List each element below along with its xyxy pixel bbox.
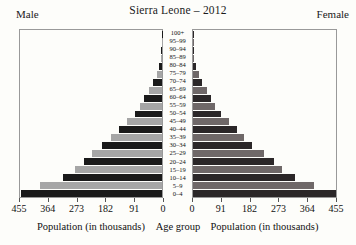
male-bar-50–54 — [135, 111, 162, 118]
female-bar-40–44 — [193, 126, 237, 133]
female-axis-tick-label-91: 91 — [206, 203, 236, 214]
age-group-axis: 100+95–9990–9485–8980–8475–7970–7465–696… — [163, 29, 192, 198]
male-row-45–49 — [20, 117, 162, 125]
female-row-95–99 — [193, 38, 336, 46]
female-bar-90–94 — [193, 47, 194, 54]
female-axis-tick-label-364: 364 — [292, 203, 322, 214]
male-bar-10–14 — [63, 174, 162, 181]
female-axis-tick-364 — [307, 198, 308, 202]
female-bar-60–64 — [193, 95, 211, 102]
female-bar-25–29 — [193, 150, 264, 157]
male-bar-75–79 — [157, 71, 162, 78]
female-row-15–19 — [193, 165, 336, 173]
age-label-5–9: 5–9 — [163, 182, 192, 190]
male-axis-tick-label-455: 455 — [4, 203, 34, 214]
male-bar-rows — [20, 30, 162, 197]
female-bar-10–14 — [193, 174, 295, 181]
female-axis-caption: Population (in thousands) — [192, 221, 337, 232]
age-label-15–19: 15–19 — [163, 166, 192, 174]
female-axis-tick-label-455: 455 — [321, 203, 351, 214]
male-row-50–54 — [20, 110, 162, 118]
female-row-30–34 — [193, 141, 336, 149]
female-bar-5–9 — [193, 182, 314, 189]
male-row-40–44 — [20, 125, 162, 133]
female-axis-tick-273 — [278, 198, 279, 202]
female-bar-0–4 — [193, 190, 336, 197]
age-label-85–89: 85–89 — [163, 53, 192, 61]
female-bar-85–89 — [193, 55, 194, 62]
male-axis-tick-label-273: 273 — [62, 203, 92, 214]
female-axis-tick-label-273: 273 — [263, 203, 293, 214]
female-bar-70–74 — [193, 79, 202, 86]
male-bar-30–34 — [102, 142, 162, 149]
male-row-70–74 — [20, 78, 162, 86]
female-row-10–14 — [193, 173, 336, 181]
male-axis-caption: Population (in thousands) — [19, 221, 163, 232]
female-bar-30–34 — [193, 142, 252, 149]
male-row-15–19 — [20, 165, 162, 173]
female-row-0–4 — [193, 189, 336, 197]
male-axis-tick-182 — [105, 198, 106, 202]
female-bar-55–59 — [193, 103, 215, 110]
male-bar-45–49 — [127, 118, 162, 125]
male-row-20–24 — [20, 157, 162, 165]
male-axis-tick-91 — [134, 198, 135, 202]
male-axis-tick-label-364: 364 — [33, 203, 63, 214]
female-bar-15–19 — [193, 166, 282, 173]
male-row-75–79 — [20, 70, 162, 78]
male-bar-65–69 — [149, 87, 162, 94]
male-bar-40–44 — [119, 126, 162, 133]
male-bar-5–9 — [40, 182, 162, 189]
male-axis-tick-364 — [48, 198, 49, 202]
female-row-35–39 — [193, 133, 336, 141]
female-bar-rows — [193, 30, 336, 197]
female-row-90–94 — [193, 46, 336, 54]
female-bar-20–24 — [193, 158, 274, 165]
male-row-0–4 — [20, 189, 162, 197]
age-label-25–29: 25–29 — [163, 150, 192, 158]
female-row-55–59 — [193, 102, 336, 110]
male-axis-tick-label-91: 91 — [119, 203, 149, 214]
male-bar-35–39 — [111, 134, 162, 141]
male-row-55–59 — [20, 102, 162, 110]
male-axis-tick-label-182: 182 — [90, 203, 120, 214]
male-bar-70–74 — [153, 79, 162, 86]
male-bar-60–64 — [144, 95, 162, 102]
female-bar-80–84 — [193, 63, 196, 70]
age-label-10–14: 10–14 — [163, 174, 192, 182]
female-row-40–44 — [193, 125, 336, 133]
female-row-20–24 — [193, 157, 336, 165]
male-bar-90–94 — [161, 47, 162, 54]
female-bar-65–69 — [193, 87, 207, 94]
female-bar-50–54 — [193, 111, 221, 118]
female-row-100+ — [193, 30, 336, 38]
male-row-35–39 — [20, 133, 162, 141]
age-label-95–99: 95–99 — [163, 37, 192, 45]
male-row-10–14 — [20, 173, 162, 181]
male-row-30–34 — [20, 141, 162, 149]
female-axis-tick-label-182: 182 — [235, 203, 265, 214]
male-bar-0–4 — [21, 190, 162, 197]
male-row-95–99 — [20, 38, 162, 46]
male-bar-55–59 — [140, 103, 162, 110]
male-row-25–29 — [20, 149, 162, 157]
female-bar-35–39 — [193, 134, 244, 141]
male-bar-25–29 — [92, 150, 162, 157]
male-axis-tick-label-0: 0 — [148, 203, 178, 214]
male-row-100+ — [20, 30, 162, 38]
female-axis-tick-label-0: 0 — [177, 203, 207, 214]
male-axis-tick-273 — [77, 198, 78, 202]
female-row-25–29 — [193, 149, 336, 157]
male-axis-tick-455 — [19, 198, 20, 202]
male-row-5–9 — [20, 181, 162, 189]
female-row-45–49 — [193, 117, 336, 125]
male-axis-tick-0 — [163, 198, 164, 202]
female-axis-tick-182 — [250, 198, 251, 202]
male-row-60–64 — [20, 94, 162, 102]
female-side-label: Female — [317, 8, 349, 20]
male-row-65–69 — [20, 86, 162, 94]
female-bar-75–79 — [193, 71, 199, 78]
age-label-0–4: 0–4 — [163, 190, 192, 198]
female-row-70–74 — [193, 78, 336, 86]
male-bar-80–84 — [159, 63, 162, 70]
